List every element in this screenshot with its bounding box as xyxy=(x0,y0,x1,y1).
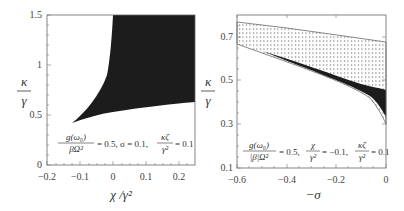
left-ytick: 1.5 xyxy=(30,9,43,20)
svg-text:= 0.5,: = 0.5, xyxy=(279,147,300,157)
svg-text:βΩ²: βΩ² xyxy=(68,144,83,154)
right-xtick: −0.2 xyxy=(327,174,345,185)
svg-text:= −0.1,: = −0.1, xyxy=(322,147,348,157)
right-ytick: 0.7 xyxy=(221,31,234,42)
right-plot: 0.1 0.3 0.5 0.7 −0.6 −0.4 −0.2 0 κ γ −σ … xyxy=(201,15,390,202)
left-ytick: 0.5 xyxy=(30,109,43,120)
svg-text:= 0.1: = 0.1 xyxy=(371,147,390,157)
left-xtick: 0 xyxy=(111,171,116,182)
right-ytick: 0.3 xyxy=(221,118,234,129)
svg-text:κζ: κζ xyxy=(358,140,367,150)
left-xtick: 0.2 xyxy=(173,171,186,182)
svg-text:= 0.1: = 0.1 xyxy=(175,139,194,149)
left-ylabel-den: γ xyxy=(21,93,27,108)
left-xtick: −0.1 xyxy=(71,171,89,182)
left-xlabel: χ /γ² xyxy=(108,187,133,202)
right-ylabel-den: γ xyxy=(205,93,211,108)
svg-text:|β|Ω²: |β|Ω² xyxy=(250,152,269,162)
right-ylabel-num: κ xyxy=(205,74,212,89)
right-ytick: 0.5 xyxy=(221,74,234,85)
right-xtick: −0.6 xyxy=(228,174,246,185)
left-xtick: −0.2 xyxy=(38,171,56,182)
right-xlabel: −σ xyxy=(305,187,321,202)
right-ytick: 0.1 xyxy=(221,162,234,173)
left-ylabel-num: κ xyxy=(21,74,28,89)
left-annotation: g(ω₀) βΩ² = 0.5, σ = 0.1, κζ γ² = 0.1 xyxy=(58,132,194,154)
svg-text:κζ: κζ xyxy=(161,132,170,142)
left-plot: 0 0.5 1 1.5 −0.2 −0.1 0 0.1 0.2 κ γ χ /γ… xyxy=(17,9,195,202)
svg-text:= 0.5, σ = 0.1,: = 0.5, σ = 0.1, xyxy=(97,139,148,149)
right-hatched-region xyxy=(237,22,386,124)
right-xtick: −0.4 xyxy=(278,174,296,185)
svg-text:γ²: γ² xyxy=(310,152,317,162)
right-xtick: 0 xyxy=(384,174,389,185)
svg-text:γ²: γ² xyxy=(359,152,366,162)
svg-text:χ: χ xyxy=(310,140,316,150)
left-xtick: 0.1 xyxy=(140,171,153,182)
figure: 0 0.5 1 1.5 −0.2 −0.1 0 0.1 0.2 κ γ χ /γ… xyxy=(0,0,404,211)
left-ytick: 1 xyxy=(37,59,42,70)
svg-text:g(ω₀): g(ω₀) xyxy=(249,140,269,150)
left-stable-region xyxy=(72,15,195,123)
svg-text:g(ω₀): g(ω₀) xyxy=(66,132,86,142)
svg-text:γ²: γ² xyxy=(162,144,169,154)
right-annotation: g(ω₀) |β|Ω² = 0.5, χ γ² = −0.1, κζ γ² = … xyxy=(243,140,390,162)
left-ytick: 0 xyxy=(37,159,42,170)
